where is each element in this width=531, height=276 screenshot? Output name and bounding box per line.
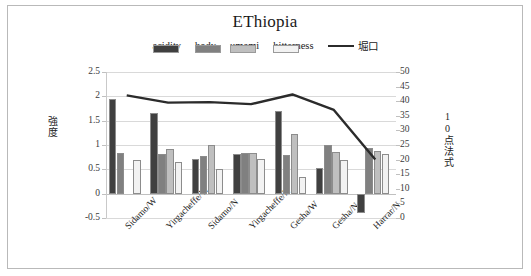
plot-area: 強度 10点法式 2.521.510.50-0.5504540353025201…: [8, 6, 522, 268]
line-series-layer: [8, 6, 531, 276]
chart-frame: EThiopia aciditybodyumamibitterness堀口 強度…: [7, 5, 523, 269]
line-堀口: [127, 94, 376, 159]
